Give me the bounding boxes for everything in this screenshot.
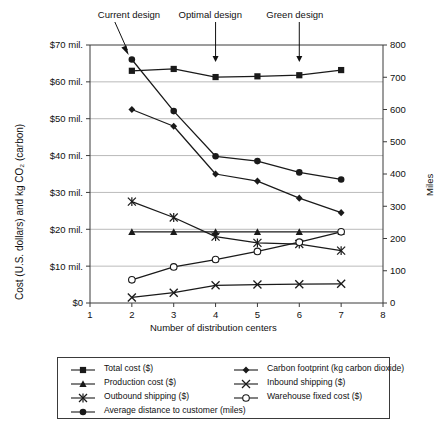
series-cross	[128, 280, 345, 302]
y-tick-label: $70 mil.	[50, 39, 83, 50]
x-tick-label: 1	[87, 309, 92, 320]
x-tick-label: 7	[338, 309, 343, 320]
x-tick-label: 2	[129, 309, 134, 320]
y-tick-label: $0	[72, 297, 83, 308]
y-tick-label: $60 mil.	[50, 76, 83, 87]
right-tick-label: 0	[390, 297, 395, 308]
y-tick-label: $50 mil.	[50, 113, 83, 124]
right-tick-label: 700	[390, 72, 406, 83]
right-tick-label: 300	[390, 201, 406, 212]
right-tick-label: 800	[390, 39, 406, 50]
legend-marker-star	[70, 392, 96, 404]
chart-legend: Total cost ($)Carbon footprint (kg carbo…	[57, 357, 390, 419]
series-diamond	[128, 106, 344, 216]
legend-label: Outbound shipping ($)	[104, 391, 189, 401]
legend-marker-cross	[233, 378, 259, 390]
x-tick-label: 8	[380, 309, 385, 320]
annotation-arrows	[115, 22, 302, 62]
right-tick-label: 200	[390, 233, 406, 244]
series-filled-circle	[129, 56, 345, 183]
y-tick-label: $40 mil.	[50, 150, 83, 161]
legend-label: Warehouse fixed cost ($)	[267, 391, 362, 401]
series-square	[129, 66, 344, 80]
legend-label: Production cost ($)	[104, 377, 176, 387]
legend-marker-open-circle	[233, 392, 259, 404]
right-tick-label: 600	[390, 104, 406, 115]
legend-label: Carbon footprint (kg carbon dioxide)	[267, 363, 404, 373]
legend-label: Average distance to customer (miles)	[104, 405, 246, 415]
x-tick-label: 3	[171, 309, 176, 320]
x-tick-label: 4	[213, 309, 218, 320]
legend-label: Inbound shipping ($)	[267, 377, 345, 387]
legend-marker-filled-circle	[70, 406, 96, 418]
y-tick-label: $10 mil.	[50, 261, 83, 272]
legend-marker-triangle	[70, 378, 96, 390]
legend-marker-diamond	[233, 364, 259, 376]
x-tick-label: 5	[255, 309, 260, 320]
legend-marker-square	[70, 364, 96, 376]
right-tick-label: 500	[390, 136, 406, 147]
y-tick-label: $30 mil.	[50, 187, 83, 198]
y-tick-label: $20 mil.	[50, 224, 83, 235]
series-open-circle	[129, 229, 345, 284]
right-tick-label: 100	[390, 265, 406, 276]
right-tick-label: 400	[390, 168, 406, 179]
x-tick-label: 6	[297, 309, 302, 320]
legend-label: Total cost ($)	[104, 363, 153, 373]
chart-figure: Current design Optimal design Green desi…	[0, 0, 445, 440]
series-star	[128, 197, 345, 255]
